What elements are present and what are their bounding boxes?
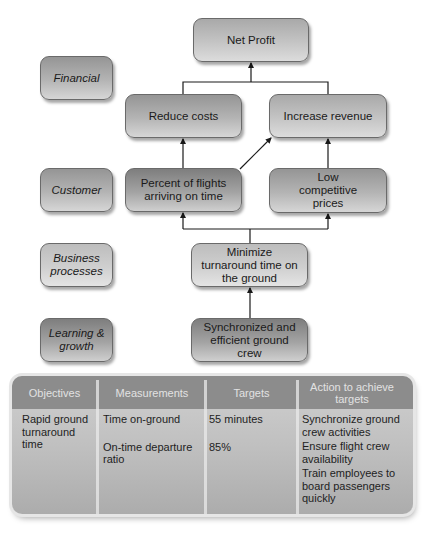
node-low-prices: Low competitive prices: [269, 168, 387, 213]
node-label: Net Profit: [227, 34, 275, 47]
perspective-customer: Customer: [40, 168, 113, 212]
node-label: Minimize turnaround time on the ground: [200, 246, 299, 285]
node-net-profit: Net Profit: [193, 18, 309, 62]
action-item: Synchronize ground crew activities: [302, 413, 402, 438]
node-ground-crew: Synchronized and efficient ground crew: [191, 318, 308, 362]
header-measurements: Measurements: [100, 376, 204, 409]
target-item: 55 minutes: [209, 413, 294, 426]
header-objectives: Objectives: [12, 376, 97, 409]
node-label: Increase revenue: [284, 110, 373, 123]
perspective-label: Learning & growth: [47, 327, 106, 353]
perspective-financial: Financial: [40, 56, 113, 100]
perspective-label: Business processes: [45, 252, 108, 278]
perspective-business-processes: Business processes: [40, 243, 113, 287]
node-reduce-costs: Reduce costs: [125, 94, 242, 138]
node-label: Synchronized and efficient ground crew: [200, 321, 299, 360]
perspective-learning-growth: Learning & growth: [40, 318, 113, 362]
header-targets: Targets: [207, 376, 296, 409]
header-actions: Action to achieve targets: [299, 376, 405, 409]
node-label: Reduce costs: [149, 110, 219, 123]
measurement-item: On-time departure ratio: [103, 441, 201, 466]
node-increase-revenue: Increase revenue: [269, 94, 387, 138]
node-minimize-turnaround: Minimize turnaround time on the ground: [191, 243, 308, 287]
column-divider: [96, 380, 99, 514]
objective-item: Rapid ground turnaround time: [22, 413, 94, 451]
action-item: Train employees to board passengers quic…: [302, 467, 402, 505]
perspective-label: Financial: [53, 72, 99, 85]
cell-measurements: Time on-ground On-time departure ratio: [103, 413, 201, 468]
column-divider: [204, 380, 207, 514]
target-item: 85%: [209, 441, 294, 454]
cell-targets: 55 minutes 85%: [209, 413, 294, 455]
column-divider: [296, 380, 299, 514]
action-item: Ensure flight crew availability: [302, 440, 402, 465]
scorecard-table: Objectives Measurements Targets Action t…: [12, 376, 413, 514]
cell-actions: Synchronize ground crew activities Ensur…: [302, 413, 402, 507]
cell-objective: Rapid ground turnaround time: [22, 413, 94, 453]
perspective-label: Customer: [52, 184, 102, 197]
node-on-time-flights: Percent of flights arriving on time: [125, 168, 242, 212]
measurement-item: Time on-ground: [103, 413, 201, 426]
node-label: Low competitive prices: [288, 171, 368, 210]
node-label: Percent of flights arriving on time: [140, 177, 227, 203]
